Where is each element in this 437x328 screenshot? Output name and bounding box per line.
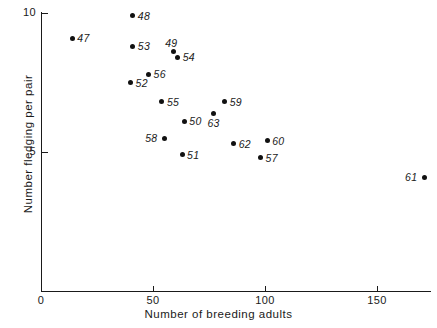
- scatter-plot-figure: 510 050100150 47484950515253545556575859…: [0, 0, 437, 328]
- data-point: [222, 99, 227, 104]
- x-tick-mark: [265, 286, 266, 292]
- data-point-label: 50: [189, 116, 201, 127]
- data-point-label: 61: [405, 172, 417, 183]
- data-point: [171, 49, 176, 54]
- data-point: [159, 99, 164, 104]
- data-point-label: 48: [138, 11, 150, 22]
- y-tick-mark: [42, 13, 48, 14]
- data-point-label: 59: [230, 97, 242, 108]
- data-point-label: 58: [145, 133, 157, 144]
- data-point: [180, 152, 185, 157]
- data-point-label: 51: [187, 150, 199, 161]
- data-point-label: 47: [77, 33, 89, 44]
- data-point-label: 57: [266, 153, 278, 164]
- x-tick-label: 100: [250, 295, 280, 306]
- x-tick-mark: [377, 286, 378, 292]
- data-point: [130, 13, 135, 18]
- data-point: [130, 44, 135, 49]
- y-axis-title: Number fledging per pair: [22, 64, 34, 224]
- data-point-label: 52: [136, 78, 148, 89]
- x-axis-line: [41, 291, 431, 292]
- data-point-label: 62: [239, 139, 251, 150]
- data-point: [231, 141, 236, 146]
- data-point: [422, 175, 427, 180]
- data-point: [265, 138, 270, 143]
- data-point-label: 54: [183, 52, 195, 63]
- data-point-label: 55: [167, 97, 179, 108]
- x-axis-title: Number of breeding adults: [0, 308, 437, 320]
- data-point-label: 60: [272, 136, 284, 147]
- data-point: [70, 36, 75, 41]
- data-point-label: 49: [165, 38, 177, 49]
- data-point-label: 63: [207, 118, 219, 129]
- x-tick-label: 150: [362, 295, 392, 306]
- data-point-label: 56: [154, 69, 166, 80]
- data-point: [211, 111, 216, 116]
- y-tick-mark: [42, 152, 48, 153]
- data-point: [258, 155, 263, 160]
- data-point: [175, 55, 180, 60]
- y-tick-label: 10: [10, 7, 36, 18]
- data-point-label: 53: [138, 41, 150, 52]
- data-point: [146, 72, 151, 77]
- data-point: [162, 136, 167, 141]
- data-point: [182, 119, 187, 124]
- x-tick-label: 50: [138, 295, 168, 306]
- data-point: [128, 80, 133, 85]
- x-tick-mark: [153, 286, 154, 292]
- x-tick-label: 0: [26, 295, 56, 306]
